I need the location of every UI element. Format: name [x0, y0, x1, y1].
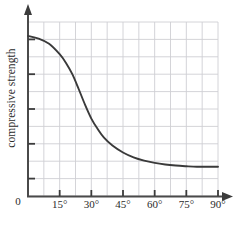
compressive-strength-chart: 15°30°45°60°75°90° 0 compressive strengt…: [0, 0, 236, 229]
x-axis-tick-labels: 15°30°45°60°75°90°: [52, 198, 226, 210]
x-axis-tick-label: 60°: [147, 198, 162, 210]
x-axis-tick-label: 75°: [179, 198, 194, 210]
y-axis-arrow-icon: [24, 4, 32, 15]
chart-canvas: 15°30°45°60°75°90° 0: [0, 0, 236, 229]
origin-label: 0: [15, 195, 21, 207]
axis-lines: [24, 4, 233, 201]
x-axis-tick-label: 45°: [115, 198, 130, 210]
y-axis-ticks: [28, 39, 35, 178]
x-axis-tick-label: 30°: [84, 198, 99, 210]
x-axis-tick-label: 15°: [52, 198, 67, 210]
x-axis-tick-label: 90°: [210, 198, 225, 210]
